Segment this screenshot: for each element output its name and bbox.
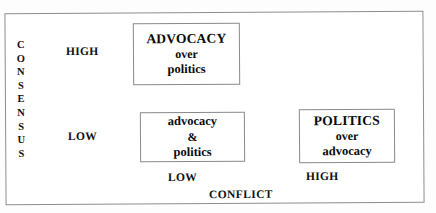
cell-secondary-label: advocacy <box>322 144 371 160</box>
cell-politics-over-advocacy: POLITICS over advocacy <box>299 109 395 164</box>
cell-connector-label: & <box>187 129 197 144</box>
y-axis-title-letter: S <box>12 79 30 93</box>
y-axis-label-low: LOW <box>68 130 97 142</box>
y-axis-title-letter: S <box>12 147 30 161</box>
figure-screenshot: C O N S E N S U S HIGH LOW ADVOCACY over… <box>0 0 436 213</box>
y-axis-label-high: HIGH <box>66 45 99 57</box>
x-axis-label-high: HIGH <box>306 170 339 182</box>
cell-connector-label: over <box>175 47 198 62</box>
y-axis-title-letter: C <box>12 38 30 52</box>
cell-connector-label: over <box>336 129 359 144</box>
y-axis-title-consensus: C O N S E N S U S <box>12 38 31 160</box>
cell-primary-label: advocacy <box>168 114 217 130</box>
y-axis-title-letter: S <box>12 120 30 134</box>
cell-advocacy-over-politics: ADVOCACY over politics <box>133 23 240 86</box>
cell-primary-label: ADVOCACY <box>146 30 226 47</box>
y-axis-title-letter: N <box>12 106 30 120</box>
cell-secondary-label: politics <box>173 144 211 160</box>
cell-advocacy-and-politics: advocacy & politics <box>140 112 245 163</box>
x-axis-title-conflict: CONFLICT <box>209 188 273 200</box>
y-axis-title-letter: N <box>12 65 30 79</box>
y-axis-title-letter: O <box>12 52 30 66</box>
y-axis-title-letter: E <box>12 92 30 106</box>
y-axis-title-letter: U <box>12 133 30 147</box>
x-axis-label-low: LOW <box>168 171 197 183</box>
cell-secondary-label: politics <box>167 62 205 78</box>
cell-primary-label: POLITICS <box>314 113 380 129</box>
